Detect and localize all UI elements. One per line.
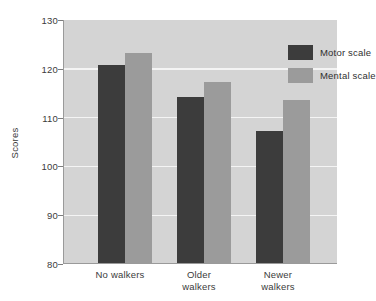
y-tick-label-80: 80 — [18, 259, 58, 270]
bar-motor-no-walkers — [98, 65, 125, 263]
y-tick-mark-80 — [58, 264, 63, 265]
bar-mental-older-walkers — [204, 82, 231, 263]
legend-label-mental: Mental scale — [320, 70, 376, 81]
y-tick-label-110: 110 — [18, 113, 58, 124]
bar-mental-newer-walkers — [283, 100, 310, 264]
legend-item-mental-scale: Mental scale — [288, 66, 376, 85]
legend-swatch-mental — [288, 68, 313, 83]
chart-legend: Motor scale Mental scale — [288, 43, 376, 89]
bar-motor-newer-walkers — [256, 131, 283, 263]
bar-motor-older-walkers — [177, 97, 204, 263]
x-tick-line-2: walkers — [223, 281, 333, 293]
y-tick-label-130: 130 — [18, 15, 58, 26]
y-tick-label-100: 100 — [18, 161, 58, 172]
bar-mental-no-walkers — [125, 53, 152, 263]
legend-label-motor: Motor scale — [320, 47, 371, 58]
x-tick-label-newer-walkers: Newer walkers — [223, 269, 333, 293]
plot-area: Motor scale Mental scale — [63, 20, 337, 264]
x-tick-line-1: Newer — [223, 269, 333, 281]
y-tick-label-90: 90 — [18, 210, 58, 221]
y-tick-label-120: 120 — [18, 64, 58, 75]
legend-swatch-motor — [288, 45, 313, 60]
legend-item-motor-scale: Motor scale — [288, 43, 376, 62]
